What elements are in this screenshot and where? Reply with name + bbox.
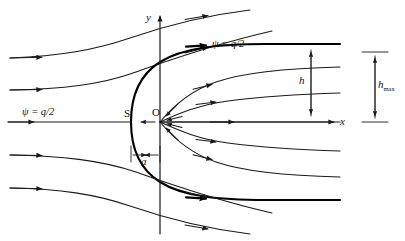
- x-axis-label: x: [340, 116, 345, 127]
- rankine-half-body-figure: y x S O ψ = q/2 ψ = q/2 a h hmax: [0, 0, 405, 241]
- hmax-subscript: max: [384, 85, 395, 92]
- dimension-hmax-label: hmax: [378, 79, 395, 93]
- psi-incoming-streamline-label: ψ = q/2: [22, 107, 54, 118]
- dividing-streamline-lower: [131, 122, 340, 200]
- dimension-h-label: h: [299, 75, 305, 86]
- freestream-upper-1: [10, 10, 250, 58]
- dimension-a-label: a: [141, 156, 147, 167]
- stagnation-point-label: S: [124, 108, 130, 119]
- dividing-streamline-upper: [131, 44, 340, 122]
- origin-label: O: [152, 107, 160, 118]
- psi-dividing-streamline-label: ψ = q/2: [212, 39, 244, 50]
- y-axis-label: y: [146, 12, 151, 23]
- freestream-lower-1: [10, 188, 250, 234]
- source-streamline-upper-2: [160, 93, 340, 122]
- source-streamline-lower-2: [160, 122, 340, 151]
